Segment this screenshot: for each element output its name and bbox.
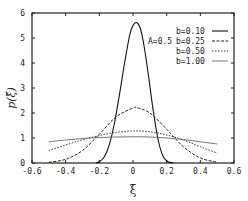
axis-ticks: -0.6-0.4-0.200.20.40.60123456 (20, 9, 241, 176)
y-axis-label: p(ξ̄) (5, 87, 18, 109)
y-tick-label: 4 (20, 59, 25, 68)
legend-label: b=1.00 (176, 57, 205, 66)
y-tick-label: 0 (20, 159, 25, 168)
annotation-label: A=0.5 (148, 37, 172, 46)
y-tick-label: 5 (20, 34, 25, 43)
y-tick-label: 3 (20, 84, 25, 93)
curve-b-0-25 (49, 107, 217, 162)
y-tick-label: 2 (20, 109, 25, 118)
x-tick-label: -0.4 (56, 167, 75, 176)
x-tick-label: 0.2 (159, 167, 174, 176)
x-tick-label: -0.6 (22, 167, 41, 176)
x-tick-label: 0.6 (227, 167, 242, 176)
y-tick-label: 1 (20, 134, 25, 143)
legend-label: b=0.25 (176, 37, 205, 46)
x-tick-label: 0 (131, 167, 136, 176)
legend-label: b=0.10 (176, 27, 205, 36)
legend: b=0.10b=0.25b=0.50b=1.00 (176, 27, 228, 66)
curve-b-0-50 (49, 131, 217, 153)
x-tick-label: 0.4 (193, 167, 208, 176)
x-axis-label: ξ̄ (130, 183, 137, 197)
legend-label: b=0.50 (176, 47, 205, 56)
x-tick-label: -0.2 (90, 167, 109, 176)
density-chart: -0.6-0.4-0.200.20.40.60123456 b=0.10b=0.… (0, 0, 248, 201)
y-tick-label: 6 (20, 9, 25, 18)
